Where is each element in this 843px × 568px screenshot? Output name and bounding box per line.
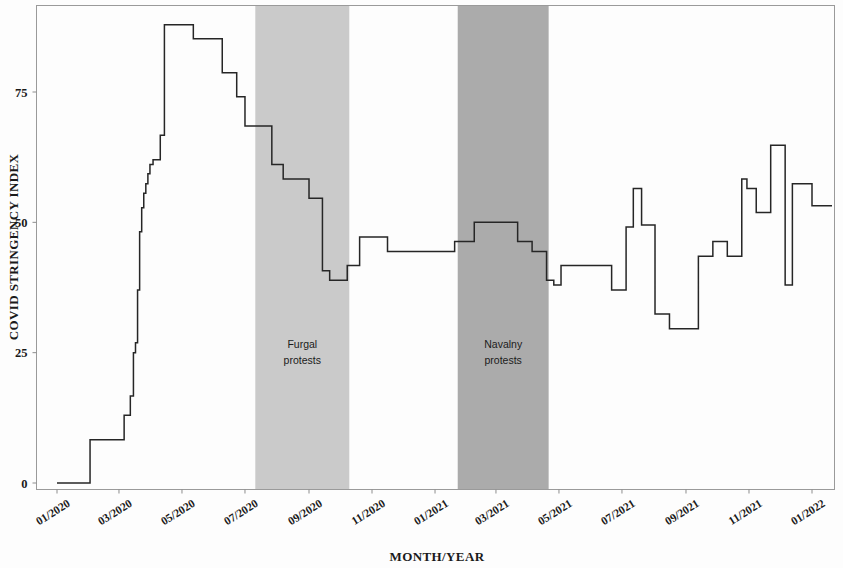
band-label-navalny-line2: protests — [485, 354, 522, 366]
x-tick-label: 11/2020 — [349, 497, 387, 527]
x-tick-label: 03/2021 — [473, 497, 512, 527]
plot-frame — [37, 6, 835, 490]
x-tick-label: 05/2021 — [536, 497, 575, 527]
band-label-navalny-line1: Navalny — [484, 338, 523, 350]
shaded-bands-group — [255, 6, 548, 489]
x-axis-ticks-group: 01/202003/202005/202007/202009/202011/20… — [34, 490, 828, 528]
x-tick-label: 07/2021 — [599, 497, 638, 527]
x-tick-label: 09/2021 — [663, 497, 702, 527]
band-label-furgal-line2: protests — [284, 354, 321, 366]
chart-figure: 0255075 01/202003/202005/202007/202009/2… — [0, 0, 843, 568]
x-tick-label: 07/2020 — [222, 497, 261, 527]
x-tick-label: 01/2020 — [34, 497, 73, 527]
covid-stringency-line-chart: 0255075 01/202003/202005/202007/202009/2… — [0, 0, 843, 568]
x-tick-label: 03/2020 — [96, 497, 135, 527]
y-axis-title: COVID STRINGENCY INDEX — [6, 153, 21, 340]
x-tick-label: 01/2022 — [789, 497, 828, 527]
y-tick-label: 25 — [15, 346, 28, 360]
x-tick-label: 11/2021 — [726, 497, 764, 527]
y-tick-label: 0 — [21, 477, 27, 491]
band-label-furgal-line1: Furgal — [287, 338, 317, 350]
shaded-band-furgal — [255, 6, 349, 489]
x-axis-title: MONTH/YEAR — [390, 549, 485, 564]
x-tick-label: 09/2020 — [286, 497, 325, 527]
y-tick-label: 75 — [15, 86, 28, 100]
shaded-band-navalny — [458, 6, 549, 489]
series-line-covid-stringency-index — [57, 25, 832, 483]
x-tick-label: 05/2020 — [159, 497, 198, 527]
x-tick-label: 01/2021 — [412, 497, 451, 527]
